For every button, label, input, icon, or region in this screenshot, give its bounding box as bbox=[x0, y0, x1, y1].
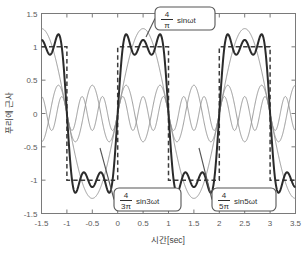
x-tick-label: 0 bbox=[115, 219, 120, 228]
y-tick-label: -0.5 bbox=[24, 143, 38, 152]
callout-fraction-numerator: 4 bbox=[165, 10, 170, 19]
x-tick-label: 1.5 bbox=[188, 219, 200, 228]
callout-fraction-denominator: 5π bbox=[219, 202, 229, 211]
y-tick-label: -1 bbox=[30, 176, 38, 185]
figure-background bbox=[0, 0, 307, 253]
callout-expression: sinωt bbox=[177, 16, 196, 25]
y-axis-title: 푸리에 근사 bbox=[4, 92, 14, 134]
y-tick-label: 0.5 bbox=[26, 76, 38, 85]
x-tick-label: -1 bbox=[63, 219, 71, 228]
y-tick-label: 1.5 bbox=[26, 10, 38, 19]
callout-expression: sin3ωt bbox=[136, 197, 160, 206]
x-axis-title: 시간[sec] bbox=[151, 235, 185, 245]
x-tick-label: 2 bbox=[217, 219, 222, 228]
y-tick-label: 0 bbox=[33, 110, 38, 119]
y-tick-label: -1.5 bbox=[24, 210, 38, 219]
callout-fraction-numerator: 4 bbox=[222, 191, 227, 200]
callout-fraction-denominator: 3π bbox=[121, 202, 131, 211]
callout-fraction-numerator: 4 bbox=[124, 191, 129, 200]
callout-fraction-denominator: π bbox=[164, 21, 170, 30]
x-tick-label: 3.5 bbox=[290, 219, 302, 228]
x-tick-label: 0.5 bbox=[138, 219, 150, 228]
x-tick-label: 3 bbox=[268, 219, 273, 228]
y-tick-label: 1 bbox=[33, 43, 38, 52]
x-tick-label: 1 bbox=[166, 219, 171, 228]
x-tick-label: 2.5 bbox=[239, 219, 251, 228]
fourier-series-figure: -1.5-1-0.500.511.522.533.5 1.510.50-0.5-… bbox=[0, 0, 307, 253]
x-tick-label: -1.5 bbox=[35, 219, 49, 228]
x-tick-label: -0.5 bbox=[85, 219, 99, 228]
fourier-chart-svg: -1.5-1-0.500.511.522.533.5 1.510.50-0.5-… bbox=[0, 0, 307, 253]
callout-expression: sin5ωt bbox=[234, 197, 258, 206]
